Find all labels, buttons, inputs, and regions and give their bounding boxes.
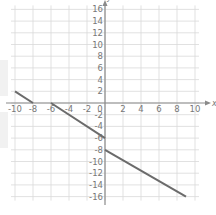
y-tick-label: -10 (89, 157, 103, 167)
y-tick-label: 2 (98, 86, 103, 96)
x-axis-arrow-icon (205, 101, 211, 106)
y-tick-label: 8 (98, 51, 103, 61)
x-tick-label: 6 (156, 104, 161, 114)
coordinate-plane: xy-10-8-6-4-20246810161412108642-2-4-6-8… (0, 0, 216, 215)
y-axis-label: y (106, 0, 112, 2)
line-segment-1 (15, 91, 33, 103)
y-tick-label: -16 (89, 192, 103, 202)
y-tick-label: 10 (92, 40, 103, 50)
x-tick-label: -2 (83, 104, 91, 114)
y-tick-label: 6 (98, 63, 103, 73)
x-axis-label: x (211, 99, 216, 108)
y-tick-label: -14 (89, 180, 103, 190)
tick-labels: xy-10-8-6-4-20246810161412108642-2-4-6-8… (8, 0, 216, 202)
y-tick-label: -12 (89, 168, 103, 178)
x-tick-label: -10 (8, 104, 22, 114)
y-tick-label: -8 (95, 145, 103, 155)
x-tick-label: 2 (120, 104, 125, 114)
y-tick-label: -2 (95, 110, 103, 120)
x-tick-label: 8 (174, 104, 179, 114)
y-tick-label: 16 (92, 4, 103, 14)
x-tick-label: -8 (29, 104, 37, 114)
y-tick-label: 12 (92, 28, 103, 38)
x-tick-label: 4 (138, 104, 143, 114)
y-tick-label: -4 (95, 121, 103, 131)
y-tick-label: 4 (98, 75, 103, 85)
axes (6, 0, 211, 205)
x-tick-label: 10 (190, 104, 201, 114)
y-tick-label: 14 (92, 16, 103, 26)
